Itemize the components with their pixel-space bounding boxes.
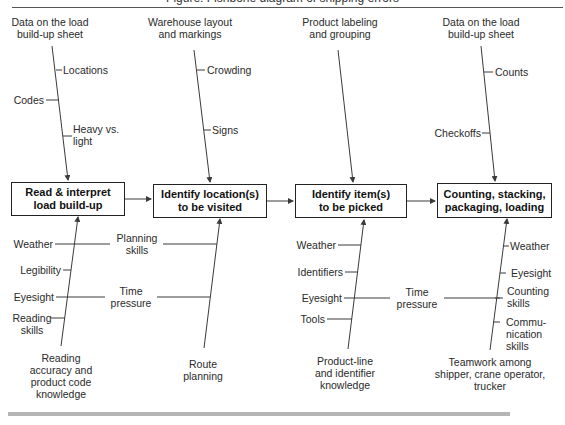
bottom-cause-4-sub-communication-skills: Commu- nication skills <box>506 316 546 352</box>
bottom-cause-3-sub-eyesight: Eyesight <box>302 292 342 304</box>
step-counting-loading-box: Counting, stacking, packaging, loading <box>437 183 552 218</box>
bottom-cause-2-main: Route planning <box>183 358 223 382</box>
bottom-cause-4-sub-counting-skills: Counting skills <box>507 285 549 309</box>
bottom-cause-3-sub-weather: Weather <box>297 239 337 251</box>
fishbone-diagram: Figure: Fishbone diagram of shipping err… <box>0 0 565 425</box>
top-cause-2-main: Warehouse layout and markings <box>148 16 232 40</box>
top-cause-4-sub-checkoffs: Checkoffs <box>435 127 482 139</box>
shared-cause-time-pressure-2: Time pressure <box>397 286 438 310</box>
top-cause-1-sub-locations: Locations <box>63 64 108 76</box>
top-cause-3-main: Product labeling and grouping <box>302 16 377 40</box>
top-cause-1-main: Data on the load build-up sheet <box>11 16 88 40</box>
bottom-cause-3-sub-tools: Tools <box>300 313 325 325</box>
bottom-cause-4-sub-weather: Weather <box>510 240 550 252</box>
top-cause-4-sub-counts: Counts <box>495 66 528 78</box>
top-cause-1-sub-codes: Codes <box>14 94 44 106</box>
bottom-cause-1-main: Reading accuracy and product code knowle… <box>30 352 92 400</box>
step-read-interpret-box: Read & interpret load build-up <box>11 182 125 216</box>
bottom-cause-1-sub-reading-skills: Reading skills <box>12 312 51 336</box>
top-cause-1-sub-heavy-light: Heavy vs. light <box>73 123 119 147</box>
shared-cause-planning-skills: Planning skills <box>117 232 158 256</box>
step-identify-location-box: Identify location(s) to be visited <box>153 184 267 218</box>
bottom-cause-1-sub-eyesight: Eyesight <box>14 291 54 303</box>
shared-cause-time-pressure-1: Time pressure <box>111 285 152 309</box>
bottom-cause-3-main: Product-line and identifier knowledge <box>315 355 375 391</box>
bottom-cause-4-sub-eyesight: Eyesight <box>511 267 551 279</box>
top-cause-2-sub-signs: Signs <box>212 124 238 136</box>
step-identify-items-box: Identify item(s) to be picked <box>295 184 407 218</box>
bottom-cause-3-sub-identifiers: Identifiers <box>297 266 343 278</box>
top-cause-4-main: Data on the load build-up sheet <box>442 16 519 40</box>
top-cause-2-sub-crowding: Crowding <box>207 64 251 76</box>
bottom-cause-4-main: Teamwork among shipper, crane operator, … <box>435 356 545 392</box>
bottom-rule <box>8 412 510 416</box>
bottom-cause-1-sub-legibility: Legibility <box>20 264 61 276</box>
bottom-cause-1-sub-weather: Weather <box>14 238 54 250</box>
